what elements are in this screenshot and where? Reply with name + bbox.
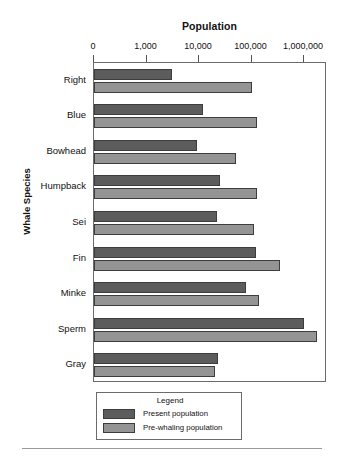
bottom-divider [22,448,322,449]
x-axis-tick-label: 1,000,000 [283,41,323,51]
y-axis-label-fin: Fin [18,252,86,263]
x-axis-tick-label: 1,000 [134,41,157,51]
x-axis-tick [303,55,304,62]
bar-right-prewhaling [94,82,252,93]
y-axis-label-sperm: Sperm [18,323,86,334]
y-axis-label-right: Right [18,74,86,85]
y-axis-label-sei: Sei [18,216,86,227]
y-axis-label-gray: Gray [18,358,86,369]
x-axis-tick [251,55,252,62]
bar-sei-prewhaling [94,224,254,235]
bar-minke-prewhaling [94,295,259,306]
x-axis-tick-label: 10,000 [184,41,212,51]
legend-item-label: Pre-whaling population [143,423,222,433]
y-axis-title: Whale Species [21,152,32,252]
bar-sei-present [94,211,217,222]
x-axis-tick-label: 0 [90,41,95,51]
bar-gray-prewhaling [94,366,215,377]
bar-bowhead-prewhaling [94,153,236,164]
bar-blue-prewhaling [94,117,257,128]
legend-swatch-icon [103,409,135,419]
x-axis-tick-label: 100,000 [234,41,267,51]
legend-title: Legend [97,396,243,405]
plot-area [93,62,326,382]
bar-right-present [94,69,172,80]
x-axis-tick [93,55,94,62]
y-axis-label-minke: Minke [18,287,86,298]
legend-item-label: Present population [143,409,208,419]
y-axis-label-blue: Blue [18,109,86,120]
y-axis-label-bowhead: Bowhead [18,145,86,156]
x-axis-tick [146,55,147,62]
legend: Legend Present populationPre-whaling pop… [96,392,242,440]
bar-gray-present [94,353,218,364]
bar-blue-present [94,104,203,115]
legend-swatch-icon [103,423,135,433]
x-axis-tick [198,55,199,62]
bar-humpback-present [94,175,220,186]
bar-sperm-prewhaling [94,331,317,342]
bar-sperm-present [94,318,304,329]
bar-bowhead-present [94,140,197,151]
bar-fin-present [94,247,256,258]
bar-humpback-prewhaling [94,188,257,199]
y-axis-label-humpback: Humpback [18,180,86,191]
bar-fin-prewhaling [94,260,280,271]
chart-title: Population [93,20,326,32]
whale-population-figure: Population Whale Species 01,00010,000100… [0,0,344,462]
bar-minke-present [94,282,246,293]
